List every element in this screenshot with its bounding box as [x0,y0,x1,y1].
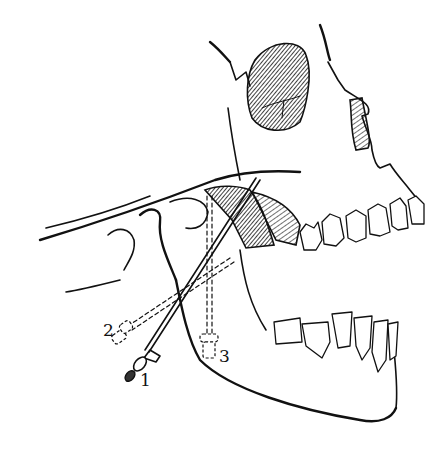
temporomandibular-joint [66,198,208,292]
lower-teeth [274,312,398,372]
pterygoid-region [205,186,300,248]
upper-teeth [300,196,424,250]
needle-3 [200,196,218,358]
needle-label-1: 1 [140,372,151,389]
needle-label-3: 3 [219,348,230,365]
orbit [247,44,309,131]
needle-label-2: 2 [103,322,114,339]
skull-needle-illustration [0,0,445,454]
